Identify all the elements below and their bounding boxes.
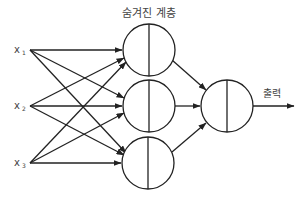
- svg-text:x: x: [14, 157, 20, 168]
- neural-network-diagram: 숨겨진 계층 x 1 x 2 x 3: [0, 0, 305, 200]
- svg-text:3: 3: [22, 162, 26, 169]
- edge-h1-out: [172, 60, 206, 90]
- hidden-node-1: [123, 24, 175, 76]
- output-node: [201, 80, 253, 132]
- edge-h3-out: [172, 123, 206, 152]
- hidden-node-2: [123, 80, 175, 132]
- edge-x1-h2: [30, 50, 124, 98]
- input-label-x2: x 2: [14, 100, 26, 112]
- svg-text:2: 2: [22, 105, 26, 112]
- input-label-x3: x 3: [14, 157, 26, 169]
- input-hidden-edges: [30, 50, 126, 163]
- output-label: 출력: [263, 88, 281, 99]
- svg-text:1: 1: [22, 49, 26, 56]
- svg-text:x: x: [14, 100, 20, 111]
- input-label-x1: x 1: [14, 44, 26, 56]
- svg-text:x: x: [14, 44, 20, 55]
- hidden-layer-label: 숨겨진 계층: [122, 7, 176, 20]
- hidden-node-3: [122, 137, 174, 189]
- edge-x3-h2: [30, 113, 124, 163]
